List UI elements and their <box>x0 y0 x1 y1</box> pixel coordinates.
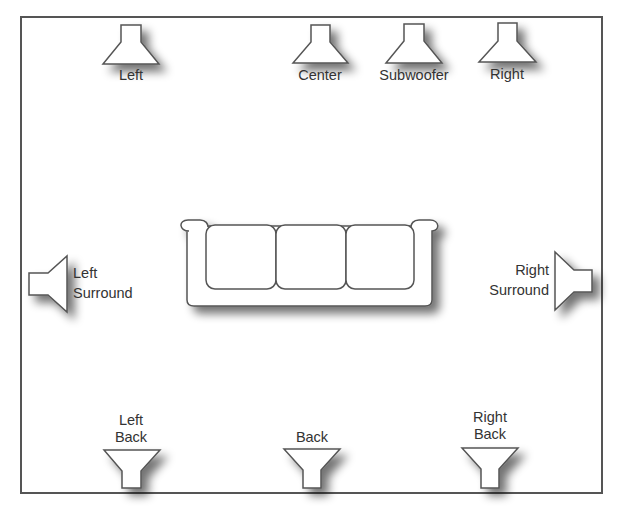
speaker-right-surround-label-2: Surround <box>489 282 549 298</box>
speaker-left-label: Left <box>119 67 143 83</box>
speaker-right-surround-label: Right <box>515 262 549 278</box>
couch <box>181 220 438 306</box>
speaker-left-surround-label: Left <box>73 265 97 281</box>
couch-cushion <box>346 225 414 289</box>
speaker-right-label: Right <box>490 66 524 82</box>
speaker-left-surround-label-2: Surround <box>73 285 133 301</box>
couch-cushion <box>206 225 276 289</box>
speaker-center-label: Center <box>298 67 342 83</box>
speaker-right-back-label: Right <box>473 409 507 425</box>
speaker-back-label: Back <box>296 429 329 445</box>
speaker-right-back-label-2: Back <box>474 426 507 442</box>
speaker-left-back-label-2: Back <box>115 429 148 445</box>
speaker-layout-diagram: Left Center Subwoofer Right Left Surroun… <box>0 0 618 507</box>
speaker-left-back-label: Left <box>119 412 143 428</box>
couch-cushion <box>276 225 346 289</box>
speaker-subwoofer-label: Subwoofer <box>379 67 448 83</box>
